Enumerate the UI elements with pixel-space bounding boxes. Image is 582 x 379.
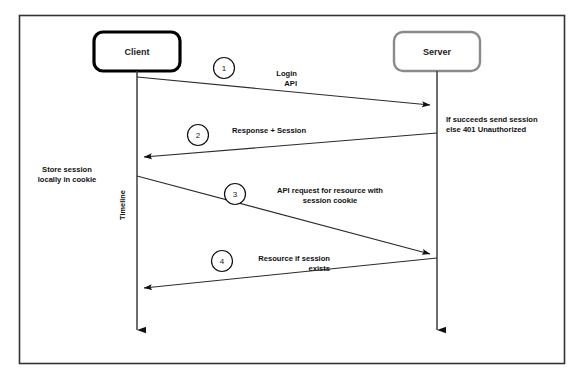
client-box-label: Client	[124, 47, 149, 57]
note-client-line1: Store session	[42, 165, 92, 174]
step-badge-2: 2	[188, 125, 209, 146]
step-badge-3: 3	[225, 184, 246, 205]
note-server-line2: else 401 Unauthorized	[446, 125, 527, 134]
step-badge-1: 1	[214, 58, 235, 79]
note-client-line2: locally in cookie	[38, 175, 97, 184]
step-badge-3-number: 3	[233, 190, 238, 199]
message-label-3-line2: session cookie	[303, 196, 357, 205]
step-badge-1-number: 1	[222, 64, 227, 73]
message-label-4-line1: Resource if session	[258, 254, 330, 263]
message-label-4-line2: exists	[308, 264, 330, 273]
sequence-diagram: Client Server 1 Login API 2 Response + S…	[0, 0, 582, 379]
server-box-label: Server	[423, 47, 452, 57]
message-label-3-line1: API request for resource with	[277, 186, 383, 195]
note-client: Store session locally in cookie	[38, 165, 97, 184]
message-label-1-line2: API	[284, 79, 297, 88]
diagram-canvas: Client Server 1 Login API 2 Response + S…	[0, 0, 582, 379]
message-label-1-line1: Login	[276, 69, 297, 78]
message-label-2-line1: Response + Session	[232, 126, 306, 135]
step-badge-4-number: 4	[220, 257, 225, 266]
step-badge-4: 4	[212, 251, 233, 272]
participant-server[interactable]: Server	[394, 32, 480, 71]
note-server-line1: If succeeds send session	[446, 115, 538, 124]
participant-client[interactable]: Client	[94, 32, 180, 71]
timeline-axis-label: Timeline	[118, 190, 127, 220]
note-server: If succeeds send session else 401 Unauth…	[446, 115, 538, 134]
step-badge-2-number: 2	[196, 131, 201, 140]
